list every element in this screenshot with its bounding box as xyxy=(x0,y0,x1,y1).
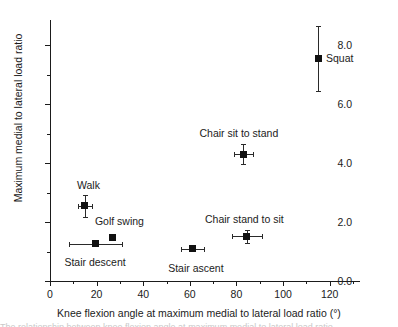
x-tick-major xyxy=(236,281,237,286)
x-error-cap xyxy=(232,234,233,239)
x-error-cap xyxy=(78,204,79,209)
y-tick-minor xyxy=(47,134,50,135)
y-error-cap xyxy=(245,230,250,231)
marker-stair-ascent xyxy=(189,245,196,252)
x-error-cap xyxy=(234,152,235,157)
y-tick-minor xyxy=(47,75,50,76)
x-error-cap xyxy=(92,204,93,209)
x-tick-minor xyxy=(73,281,74,284)
y-error-cap xyxy=(241,164,246,165)
y-error-cap xyxy=(241,144,246,145)
y-tick-label: 0.0 xyxy=(337,276,352,287)
x-tick-label: 60 xyxy=(184,289,196,300)
point-label-squat: Squat xyxy=(326,53,353,64)
scatter-plot-figure: 0.02.04.06.08.0020406080100120 WalkStair… xyxy=(0,0,398,327)
point-label-golf-swing: Golf swing xyxy=(95,216,144,227)
y-error-cap xyxy=(245,243,250,244)
x-error-cap xyxy=(69,242,70,247)
point-label-stair-descent: Stair descent xyxy=(64,257,125,268)
x-error-cap xyxy=(122,242,123,247)
marker-stair-descent xyxy=(92,240,99,247)
x-tick-label: 0 xyxy=(47,289,53,300)
x-tick-label: 40 xyxy=(137,289,149,300)
y-tick-label: 4.0 xyxy=(337,158,352,169)
marker-walk xyxy=(81,202,88,209)
x-tick-label: 100 xyxy=(274,289,292,300)
x-tick-major xyxy=(143,281,144,286)
x-tick-label: 120 xyxy=(321,289,339,300)
marker-golf-swing xyxy=(109,234,116,241)
y-tick-major xyxy=(45,163,50,164)
x-tick-major xyxy=(50,281,51,286)
marker-chair-stand-to-sit xyxy=(243,233,250,240)
x-tick-minor xyxy=(306,281,307,284)
y-error-cap xyxy=(83,195,88,196)
y-tick-label: 6.0 xyxy=(337,99,352,110)
x-tick-major xyxy=(330,281,331,286)
point-label-walk: Walk xyxy=(77,180,100,191)
point-label-stair-ascent: Stair ascent xyxy=(168,263,223,274)
y-axis-title: Maximum medial to lateral load ratio xyxy=(12,0,24,268)
y-tick-minor xyxy=(47,252,50,253)
x-tick-major xyxy=(97,281,98,286)
marker-chair-sit-to-stand xyxy=(240,151,247,158)
x-tick-label: 20 xyxy=(91,289,103,300)
x-tick-label: 80 xyxy=(231,289,243,300)
x-error-cap xyxy=(204,247,205,252)
x-error-cap xyxy=(181,247,182,252)
y-error-cap xyxy=(83,217,88,218)
x-error-cap xyxy=(253,152,254,157)
marker-squat xyxy=(315,55,322,62)
x-tick-minor xyxy=(167,281,168,284)
figure-caption-sliver: The relationship between knee flexion an… xyxy=(0,322,398,327)
x-tick-minor xyxy=(120,281,121,284)
y-tick-major xyxy=(45,222,50,223)
x-tick-minor xyxy=(260,281,261,284)
y-tick-minor xyxy=(47,193,50,194)
x-tick-minor xyxy=(213,281,214,284)
y-axis-line xyxy=(50,20,51,281)
point-label-chair-sit-to-stand: Chair sit to stand xyxy=(199,128,278,139)
x-error-cap xyxy=(262,234,263,239)
point-label-chair-stand-to-sit: Chair stand to sit xyxy=(205,214,284,225)
y-error-cap xyxy=(316,91,321,92)
y-tick-label: 8.0 xyxy=(337,40,352,51)
y-tick-major xyxy=(45,45,50,46)
y-tick-major xyxy=(45,104,50,105)
plot-area: 0.02.04.06.08.0020406080100120 WalkStair… xyxy=(50,20,360,281)
y-error-cap xyxy=(316,26,321,27)
x-axis-title: Knee flexion angle at maximum medial to … xyxy=(0,307,398,319)
x-tick-major xyxy=(283,281,284,286)
y-tick-label: 2.0 xyxy=(337,217,352,228)
x-tick-minor xyxy=(353,281,354,284)
x-tick-major xyxy=(190,281,191,286)
